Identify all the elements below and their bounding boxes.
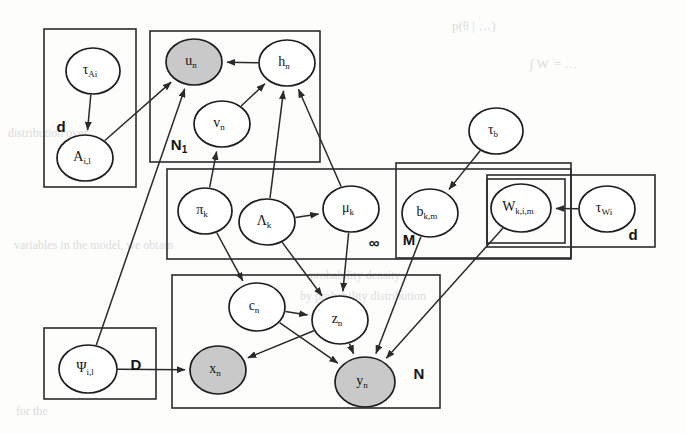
node-psi_il[interactable]: Ψi,l xyxy=(59,345,117,393)
plate-label: N1 xyxy=(171,136,188,155)
plate-label: d xyxy=(56,118,65,135)
node-W_kim[interactable]: Wk,i,m xyxy=(491,184,551,232)
edge-tau_b-to-b_km xyxy=(449,151,480,190)
edge-Lambda_k-to-mu_k xyxy=(296,214,319,218)
nodes-layer: τAiAi,lunhnvnπkΛkμkτbbk,mWk,i,mτWicnznΨi… xyxy=(57,39,635,407)
edge-b_km-to-y_n xyxy=(376,237,421,354)
node-c_n[interactable]: cn xyxy=(229,283,285,331)
edge-Lambda_k-to-h_n xyxy=(270,91,283,198)
plate-label: d xyxy=(628,226,637,243)
plate-label: M xyxy=(403,231,416,248)
edge-Lambda_k-to-z_n xyxy=(282,242,322,295)
node-Lambda_k[interactable]: Λk xyxy=(239,199,295,245)
plate-label: D xyxy=(131,356,142,373)
edge-A_il-to-u_n xyxy=(105,82,171,140)
node-mu_k[interactable]: μk xyxy=(323,186,379,232)
plate-label: N xyxy=(414,365,425,382)
edge-pi_k-to-c_n xyxy=(217,233,243,281)
node-y_n[interactable]: yn xyxy=(335,357,395,407)
plate-label: ∞ xyxy=(369,234,380,251)
node-z_n[interactable]: zn xyxy=(312,296,368,344)
node-x_n[interactable]: xn xyxy=(190,346,246,394)
node-tau_Wi[interactable]: τWi xyxy=(579,186,635,232)
node-h_n[interactable]: hn xyxy=(259,40,315,86)
figure-canvas: p(θ | …)∫ W = …distribution overprobabil… xyxy=(0,0,685,434)
node-b_km[interactable]: bk,m xyxy=(402,189,458,237)
edge-psi_il-to-x_n xyxy=(118,369,185,370)
node-pi_k[interactable]: πk xyxy=(178,188,232,234)
edge-z_n-to-x_n xyxy=(248,331,314,358)
graphical-model-diagram: dN1∞MdDN τAiAi,lunhnvnπkΛkμkτbbk,mWk,i,m… xyxy=(0,0,685,434)
edge-c_n-to-z_n xyxy=(286,311,308,314)
node-v_n[interactable]: vn xyxy=(194,101,250,147)
edge-mu_k-to-z_n xyxy=(343,233,349,291)
node-u_n[interactable]: un xyxy=(166,39,222,85)
edge-tau_Ai-to-A_il xyxy=(88,95,91,130)
node-tau_Ai[interactable]: τAi xyxy=(66,48,120,94)
edge-v_n-to-h_n xyxy=(241,84,265,106)
edge-z_n-to-y_n xyxy=(350,344,354,354)
node-tau_b[interactable]: τb xyxy=(469,108,523,154)
node-A_il[interactable]: Ai,l xyxy=(57,135,113,181)
